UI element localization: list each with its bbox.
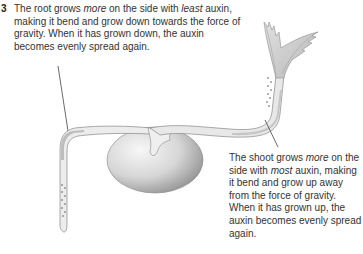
emphasis: more	[306, 152, 329, 163]
auxin-dots-shoot	[266, 77, 272, 107]
root-leader-line	[58, 66, 68, 131]
shoot	[150, 75, 284, 137]
text: The shoot grows	[229, 152, 306, 163]
leaves	[264, 22, 318, 78]
emphasis: most	[271, 165, 293, 176]
shoot-caption: The shoot grows more on the side with mo…	[229, 152, 363, 240]
